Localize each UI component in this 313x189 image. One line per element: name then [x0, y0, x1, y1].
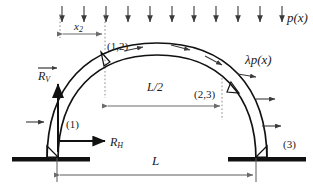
hinge-notch-base-right: [256, 146, 267, 157]
hinge-label-base-left: (1): [66, 118, 79, 131]
rv-label: RV: [37, 69, 51, 84]
arch-outer-curve: [47, 43, 267, 160]
hinge-label-right: (2,3): [194, 88, 215, 101]
half-span-label: L/2: [146, 80, 163, 94]
rh-label: RH: [109, 135, 124, 150]
x2-label: x2: [73, 20, 83, 34]
lambda-p-of-x-label: λp(x): [244, 52, 272, 67]
tangential-arrow-4: [205, 56, 222, 65]
support-base-left: [12, 157, 90, 162]
arch-diagram: p(x) x2 λp(x) RV: [0, 0, 313, 189]
span-label: L: [151, 153, 159, 168]
arch-inner-curve: [58, 55, 256, 160]
support-base-right: [228, 157, 306, 162]
vertical-load-arrows: [62, 6, 282, 22]
hinge-label-base-right: (3): [283, 138, 296, 151]
p-of-x-label: p(x): [286, 10, 308, 25]
diagram-canvas: p(x) x2 λp(x) RV: [0, 0, 313, 189]
hinge-notch-base-left: [47, 146, 58, 157]
arch-curves: [47, 43, 267, 160]
hinge-label-crown: (1,2): [107, 40, 128, 53]
